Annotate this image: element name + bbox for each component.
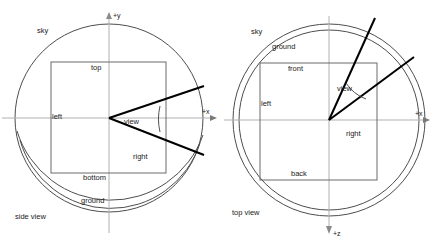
side-view-ground-label: ground [81,196,104,205]
top-view-ground-label: ground [272,42,295,51]
top-view-caption: top view [232,208,260,217]
diagram-root: +y +x sky ground top bottom left right v… [0,0,438,241]
side-view-sky-label: sky [37,26,49,35]
top-view-box [260,63,377,180]
top-view-box-label-front: front [288,64,304,73]
side-view-ground-arc-inner [20,140,200,208]
top-view-z-axis-arrowhead [326,226,332,234]
top-view-x-axis-arrowhead [423,117,430,123]
side-view-box-label-left: left [52,112,63,121]
top-view-frustum-label: view [337,84,353,93]
side-view-y-axis-label: +y [113,12,121,20]
side-view-x-axis-arrowhead [210,115,217,121]
top-view-box-label-right: right [346,129,362,138]
panel-top-view: +z +x sky ground front back left right v… [224,16,430,237]
side-view-frustum-ray-upper [109,86,204,118]
side-view-y-axis-arrowhead [106,12,112,19]
top-view-sky-label: sky [251,27,263,36]
side-view-angle-arc [158,106,160,132]
side-view-box-label-top: top [91,63,101,72]
top-view-box-label-back: back [291,169,307,178]
top-view-x-axis-label: +x [415,110,423,117]
side-view-ground-arc-outer [17,131,203,200]
diagram-canvas: +y +x sky ground top bottom left right v… [0,0,438,241]
panel-side-view: +y +x sky ground top bottom left right v… [2,12,217,233]
side-view-caption: side view [15,212,46,221]
side-view-box-label-right: right [133,152,149,161]
side-view-box-label-bottom: bottom [83,173,106,182]
side-view-frustum-label: view [124,117,140,126]
side-view-x-axis-label: +x [202,108,210,115]
top-view-z-axis-label: +z [333,230,341,237]
top-view-box-label-left: left [261,99,272,108]
